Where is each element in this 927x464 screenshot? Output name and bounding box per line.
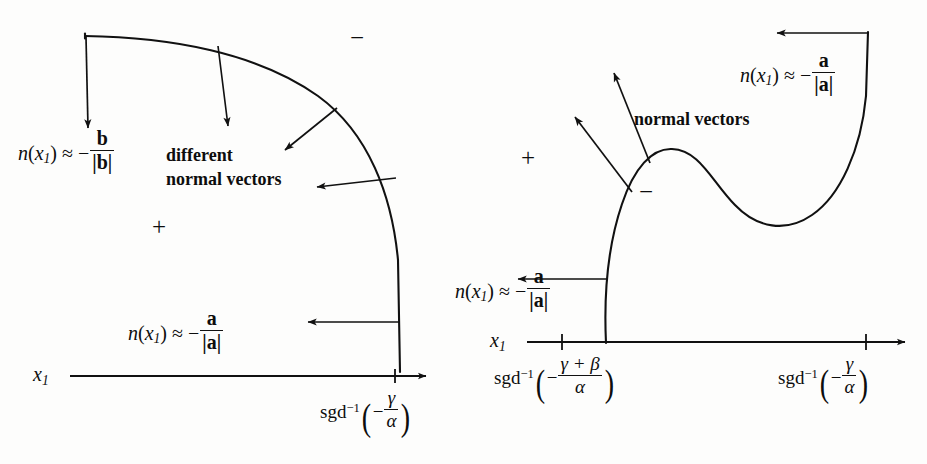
- axis-variable: x: [33, 363, 42, 385]
- fraction-gamma-over-alpha: γα: [384, 388, 398, 431]
- paren-close: ): [859, 364, 868, 403]
- normal-function-name: n: [740, 64, 750, 86]
- paren-close: ): [401, 398, 410, 437]
- paren-open: (: [820, 364, 829, 403]
- minus-sign: −: [188, 322, 199, 344]
- fraction-denominator: |b|: [90, 151, 114, 173]
- fraction-denominator: α: [558, 376, 601, 397]
- fraction-numerator: a: [527, 266, 550, 289]
- left-axis-tick-label: sgd−1(−γα): [320, 388, 412, 437]
- paren-close: ): [772, 64, 779, 86]
- minus-sign: −: [800, 64, 811, 86]
- normal-function-name: n: [128, 322, 138, 344]
- minus-sign: −: [373, 401, 384, 422]
- paren-open: (: [536, 364, 545, 403]
- fraction-denominator: |a|: [527, 289, 550, 311]
- paren-close: ): [160, 322, 167, 344]
- axis-variable-subscript: 1: [42, 373, 49, 388]
- right-axis-tick-label-right: sgd−1(−γα): [778, 354, 870, 403]
- paren-open: (: [750, 64, 757, 86]
- sgd-function-name: sgd: [778, 367, 804, 388]
- fraction-numerator: γ + β: [558, 354, 601, 376]
- left-normal-label-top: n(x1) ≈ −b|b|: [18, 128, 115, 173]
- paren-close: ): [605, 364, 614, 403]
- variable-x: x: [757, 64, 766, 86]
- sgd-exponent: −1: [804, 367, 817, 381]
- left-region-sign-minus: −: [350, 24, 364, 52]
- fraction-numerator: γ: [384, 388, 398, 410]
- axis-variable-subscript: 1: [499, 339, 506, 354]
- right-axis-tick-label-left: sgd−1(−γ + βα): [494, 354, 616, 403]
- sgd-exponent: −1: [346, 401, 359, 415]
- right-axis-label: x1: [490, 330, 506, 353]
- axis-variable: x: [490, 329, 499, 351]
- minus-sign: −: [515, 280, 526, 302]
- paren-open: (: [138, 322, 145, 344]
- left-region-sign-plus: +: [152, 213, 166, 241]
- sgd-function-name: sgd: [494, 367, 520, 388]
- fraction-a-over-abs-a: a|a|: [812, 50, 835, 95]
- sgd-function-name: sgd: [320, 401, 346, 422]
- left-x1-axis: [70, 369, 426, 383]
- fraction-numerator: a: [200, 308, 223, 331]
- approx-sign: ≈: [172, 322, 183, 344]
- fraction-denominator: α: [842, 376, 856, 397]
- left-normal-label-bottom: n(x1) ≈ −a|a|: [128, 308, 224, 353]
- paren-open: (: [465, 280, 472, 302]
- sgd-exponent: −1: [520, 367, 533, 381]
- paren-open: (: [28, 142, 35, 164]
- fraction-numerator: b: [90, 128, 114, 151]
- left-annotation-pointer: [317, 178, 396, 187]
- variable-x: x: [145, 322, 154, 344]
- figure-canvas: − + n(x1) ≈ −b|b| different normal vecto…: [0, 0, 927, 464]
- right-x1-axis: [527, 334, 905, 350]
- right-normal-label-left: n(x1) ≈ −a|a|: [455, 266, 551, 311]
- fraction-denominator: α: [384, 410, 398, 431]
- right-normal-arrow-1: [575, 117, 632, 192]
- normal-function-name: n: [18, 142, 28, 164]
- fraction-numerator: γ: [842, 354, 856, 376]
- approx-sign: ≈: [784, 64, 795, 86]
- fraction-gamma-over-alpha: γα: [842, 354, 856, 397]
- paren-open: (: [362, 398, 371, 437]
- variable-x: x: [472, 280, 481, 302]
- right-region-sign-minus: −: [639, 178, 653, 206]
- fraction-numerator: a: [812, 50, 835, 73]
- left-normal-arrow-3: [285, 108, 337, 150]
- left-axis-label: x1: [33, 364, 49, 387]
- left-normal-arrow-1: [86, 37, 88, 128]
- right-normal-label-top: n(x1) ≈ −a|a|: [740, 50, 836, 95]
- paren-close: ): [50, 142, 57, 164]
- approx-sign: ≈: [499, 280, 510, 302]
- approx-sign: ≈: [62, 142, 73, 164]
- fraction-a-over-abs-a: a|a|: [200, 308, 223, 353]
- right-region-sign-plus: +: [521, 144, 535, 172]
- paren-close: ): [487, 280, 494, 302]
- minus-sign: −: [78, 142, 89, 164]
- right-annotation-label: normal vectors: [634, 110, 749, 128]
- normal-function-name: n: [455, 280, 465, 302]
- variable-x: x: [35, 142, 44, 164]
- fraction-b-over-abs-b: b|b|: [90, 128, 114, 173]
- left-annotation-line1: different: [166, 146, 233, 164]
- left-annotation-line2: normal vectors: [166, 170, 281, 188]
- left-normal-arrow-2: [218, 46, 228, 126]
- fraction-denominator: |a|: [200, 331, 223, 353]
- minus-sign: −: [831, 367, 842, 388]
- fraction-gamma-plus-beta-over-alpha: γ + βα: [558, 354, 601, 397]
- minus-sign: −: [547, 367, 558, 388]
- fraction-denominator: |a|: [812, 73, 835, 95]
- fraction-a-over-abs-a: a|a|: [527, 266, 550, 311]
